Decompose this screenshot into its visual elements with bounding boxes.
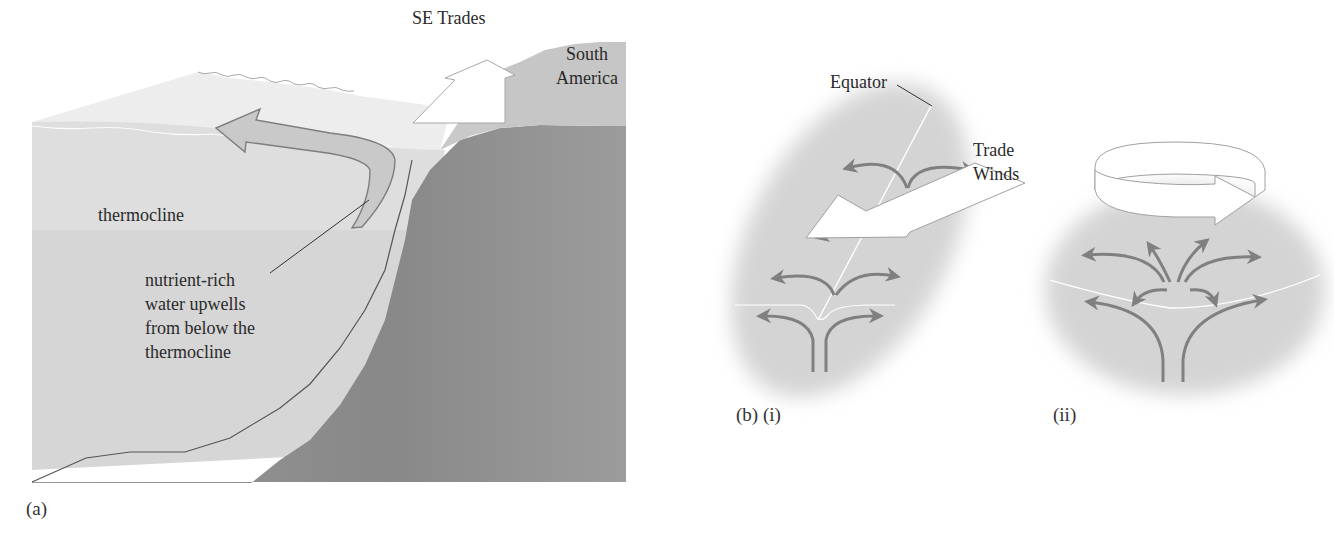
panel-a-illustration — [0, 0, 646, 552]
south-america-label: South America — [556, 42, 618, 90]
upwelling-figure: SE Trades South America thermocline nutr… — [0, 0, 1334, 552]
se-trades-label: SE Trades — [412, 8, 486, 29]
panel-b-i-caption: (b) (i) — [736, 404, 781, 426]
panel-a-caption: (a) — [26, 498, 47, 520]
trade-winds-label: Trade Winds — [973, 138, 1019, 186]
panel-b-ii-illustration — [1045, 142, 1325, 395]
thermocline-label: thermocline — [98, 205, 184, 226]
upwelling-annotation: nutrient-rich water upwells from below t… — [145, 268, 255, 364]
equator-label: Equator — [830, 72, 887, 93]
se-trades-arrow — [413, 60, 515, 123]
panel-b-ii-caption: (ii) — [1053, 404, 1076, 426]
panel-b-i-illustration — [682, 43, 1025, 437]
